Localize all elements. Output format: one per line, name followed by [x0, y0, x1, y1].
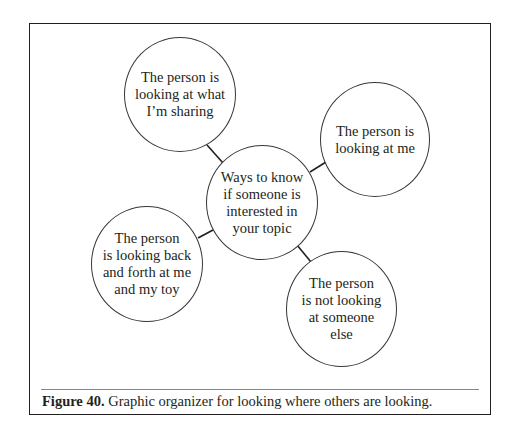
connector-bottom-left — [198, 230, 213, 238]
bubble-top-left: The person is looking at what I’m sharin… — [124, 37, 236, 152]
caption-label: Figure 40. — [42, 393, 105, 409]
connector-top-left — [207, 145, 223, 163]
bubble-text: The person is looking at me — [335, 123, 415, 157]
bubble-center: Ways to know if someone is interested in… — [206, 145, 318, 260]
caption-text: Graphic organizer for looking where othe… — [105, 393, 433, 409]
figure-caption: Figure 40. Graphic organizer for looking… — [42, 392, 432, 410]
caption-divider — [41, 389, 479, 390]
bubble-text: The person is looking back and forth at … — [103, 230, 192, 298]
bubble-bottom-left: The person is looking back and forth at … — [91, 206, 203, 322]
bubble-right: The person is looking at me — [320, 82, 430, 197]
bubble-bottom-right: The person is not looking at someone els… — [286, 251, 397, 367]
center-text: Ways to know if someone is interested in… — [221, 169, 304, 237]
bubble-text: The person is looking at what I’m sharin… — [135, 69, 225, 120]
connector-bottom-right — [297, 245, 311, 262]
bubble-text: The person is not looking at someone els… — [302, 275, 382, 343]
connector-right — [310, 162, 326, 172]
